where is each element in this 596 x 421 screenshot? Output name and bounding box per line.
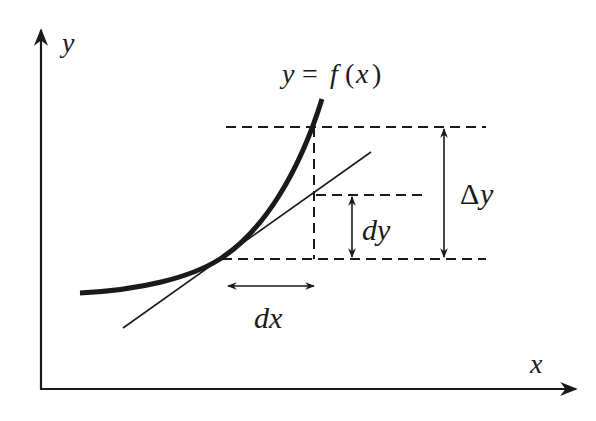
svg-text:(: (: [345, 58, 354, 89]
svg-text:y: y: [477, 177, 494, 210]
svg-text:): ): [372, 58, 381, 89]
curve-label: y = f ( x ): [279, 58, 381, 89]
svg-text:x: x: [355, 58, 369, 89]
svg-text:f: f: [330, 58, 341, 89]
dx-label: dx: [254, 301, 283, 334]
dashed-guides: [222, 127, 486, 259]
svg-text:y: y: [279, 58, 295, 89]
svg-text:Δ: Δ: [460, 177, 479, 210]
delta-y-label: Δ y: [460, 177, 494, 210]
dy-label: dy: [362, 213, 391, 246]
svg-text:=: =: [302, 58, 318, 89]
x-axis-label: x: [529, 348, 543, 379]
differential-diagram: y x y = f ( x ) Δ y dy dx: [0, 0, 596, 421]
y-axis-label: y: [59, 27, 75, 58]
function-curve: [80, 99, 322, 293]
